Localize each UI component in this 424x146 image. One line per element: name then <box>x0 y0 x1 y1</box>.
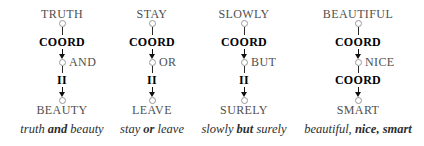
top-word: BEAUTIFUL <box>323 8 393 20</box>
edge-label-coord: COORD <box>39 36 85 48</box>
dependency-node-circle <box>149 20 156 27</box>
diagram-column-slowly-surely: SLOWLY COORD BUT II SURELY slowly but su… <box>194 8 294 136</box>
bottom-word: SMART <box>337 104 380 116</box>
edge-label-coord: COORD <box>335 36 381 48</box>
dependency-node-circle <box>59 20 66 27</box>
edge-line <box>62 27 63 35</box>
edge-line <box>152 66 153 73</box>
caption: truth and beauty <box>20 123 103 136</box>
caption-pre: stay <box>120 122 143 136</box>
edge-line <box>152 27 153 35</box>
edge-arrow <box>355 49 361 59</box>
bottom-word: SURELY <box>220 104 268 116</box>
caption: beautiful, nice, smart <box>304 123 412 136</box>
caption-post: leave <box>154 122 184 136</box>
middle-node-row: NICE <box>297 59 419 66</box>
edge-line <box>62 66 63 73</box>
conjunction-word: NICE <box>365 56 395 68</box>
edge-line <box>244 27 245 35</box>
edge-label-ii: II <box>239 74 249 86</box>
conjunction-word: BUT <box>251 56 276 68</box>
edge-arrow <box>355 87 361 97</box>
dependency-node-circle <box>355 59 362 66</box>
bottom-word: LEAVE <box>132 104 172 116</box>
edge-label-ii: II <box>57 74 67 86</box>
dependency-node-circle <box>241 20 248 27</box>
edge-label-coord: COORD <box>221 36 267 48</box>
caption-pre: truth <box>20 122 47 136</box>
conjunction-word: AND <box>69 56 96 68</box>
dependency-node-circle <box>149 59 156 66</box>
edge-line <box>358 27 359 35</box>
caption-pre: slowly <box>202 122 237 136</box>
edge-arrow <box>241 49 247 59</box>
edge-line <box>244 66 245 73</box>
edge-arrow <box>59 49 65 59</box>
edge-label-ii: II <box>147 74 157 86</box>
edge-arrow <box>149 87 155 97</box>
caption-bold: but <box>237 122 254 136</box>
dependency-node-circle <box>59 59 66 66</box>
diagram-column-beautiful-smart: BEAUTIFUL COORD NICE COORD SMART beautif… <box>297 8 419 136</box>
caption-post: beauty <box>67 122 103 136</box>
conjunction-word: OR <box>159 56 176 68</box>
edge-label-coord: COORD <box>335 74 381 86</box>
edge-line <box>358 66 359 73</box>
caption-bold: nice, smart <box>355 122 412 136</box>
edge-arrow <box>149 49 155 59</box>
dependency-diagrams-figure: TRUTH COORD AND II BEAUTY truth and beau… <box>0 0 424 146</box>
caption-post: surely <box>253 122 286 136</box>
top-word: SLOWLY <box>218 8 269 20</box>
dependency-node-circle <box>355 20 362 27</box>
edge-arrow <box>241 87 247 97</box>
caption-pre: beautiful, <box>304 122 355 136</box>
caption: stay or leave <box>120 123 184 136</box>
diagram-column-stay-leave: STAY COORD OR II LEAVE stay or leave <box>102 8 202 136</box>
middle-node-row: OR <box>102 59 202 66</box>
diagram-column-truth-beauty: TRUTH COORD AND II BEAUTY truth and beau… <box>12 8 112 136</box>
caption-bold: or <box>143 122 154 136</box>
caption: slowly but surely <box>202 123 287 136</box>
top-word: STAY <box>137 8 168 20</box>
edge-arrow <box>59 87 65 97</box>
middle-node-row: BUT <box>194 59 294 66</box>
edge-label-coord: COORD <box>129 36 175 48</box>
middle-node-row: AND <box>12 59 112 66</box>
dependency-node-circle <box>241 59 248 66</box>
bottom-word: BEAUTY <box>36 104 87 116</box>
top-word: TRUTH <box>41 8 83 20</box>
caption-bold: and <box>48 122 67 136</box>
